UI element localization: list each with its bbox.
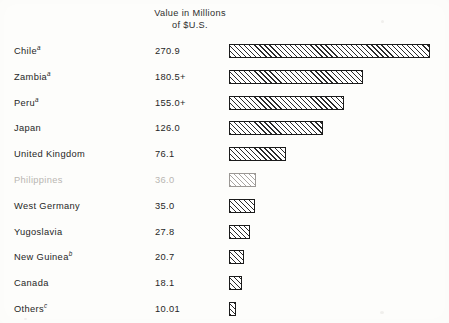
row-category-label: Zambiaa (14, 70, 51, 84)
row-value-label: 270.9 (155, 44, 180, 58)
row-bar-track (229, 302, 236, 316)
row-footnote-marker: b (69, 250, 73, 257)
row-category-text: Chile (14, 46, 37, 56)
row-category-label: Chilea (14, 44, 40, 58)
row-category-text: Zambia (14, 72, 47, 82)
scan-speck (381, 20, 384, 23)
row-footnote-marker: c (44, 302, 47, 309)
row-category-text: Others (14, 304, 44, 314)
row-bar-track (229, 276, 242, 290)
row-value-label: 35.0 (155, 199, 175, 213)
row-value-label: 155.0+ (155, 96, 186, 110)
row-bar-track (229, 70, 363, 84)
row-bar-track (229, 173, 256, 187)
row-category-label: Yugoslavia (14, 225, 62, 239)
row-value-label: 76.1 (155, 147, 175, 161)
row-category-label: Japan (14, 121, 41, 135)
row-value-label: 126.0 (155, 121, 180, 135)
value-column-header-line1: Value in Millions (154, 8, 226, 18)
row-category-label: New Guineab (14, 250, 72, 264)
row-bar-track (229, 250, 244, 264)
row-bar (229, 121, 323, 135)
row-bar (229, 250, 244, 264)
chart-row: Philippines36.0 (0, 173, 449, 199)
row-category-text: United Kingdom (14, 149, 85, 159)
row-value-label: 10.01 (155, 302, 180, 316)
row-bar (229, 302, 236, 316)
row-category-label: West Germany (14, 199, 80, 213)
chart-row: Zambiaa180.5+ (0, 70, 449, 96)
chart-rows: Chilea270.9Zambiaa180.5+Perua155.0+Japan… (0, 44, 449, 323)
row-bar-track (229, 147, 286, 161)
row-bar-track (229, 225, 250, 239)
row-bar (229, 173, 256, 187)
row-value-label: 27.8 (155, 225, 175, 239)
row-value-label: 18.1 (155, 276, 175, 290)
value-column-header-line2: of $U.S. (128, 20, 252, 32)
chart-row: Canada18.1 (0, 276, 449, 302)
row-category-label: Canada (14, 276, 49, 290)
row-category-label: Perua (14, 96, 39, 110)
row-bar (229, 44, 430, 58)
row-category-text: Peru (14, 98, 35, 108)
row-bar (229, 225, 250, 239)
row-value-label: 180.5+ (155, 70, 186, 84)
row-bar (229, 70, 363, 84)
row-bar-track (229, 44, 430, 58)
row-bar (229, 96, 344, 110)
chart-row: Othersc10.01 (0, 302, 449, 323)
chart-row: Chilea270.9 (0, 44, 449, 70)
bar-chart-figure: Value in Millions of $U.S. Chilea270.9Za… (0, 0, 449, 323)
chart-row: New Guineab20.7 (0, 250, 449, 276)
chart-row: West Germany35.0 (0, 199, 449, 225)
row-footnote-marker: a (47, 70, 51, 77)
row-footnote-marker: a (37, 44, 41, 51)
row-bar (229, 199, 255, 213)
row-value-label: 20.7 (155, 250, 175, 264)
chart-row: Japan126.0 (0, 121, 449, 147)
row-category-text: West Germany (14, 201, 80, 211)
row-category-text: Yugoslavia (14, 227, 62, 237)
chart-row: United Kingdom76.1 (0, 147, 449, 173)
row-category-text: Philippines (14, 175, 63, 185)
row-category-text: New Guinea (14, 252, 69, 262)
row-category-label: Othersc (14, 302, 47, 316)
row-bar-track (229, 96, 344, 110)
chart-row: Yugoslavia27.8 (0, 225, 449, 251)
row-bar-track (229, 199, 255, 213)
row-category-text: Japan (14, 123, 41, 133)
row-value-label: 36.0 (155, 173, 175, 187)
row-category-label: Philippines (14, 173, 63, 187)
value-column-header: Value in Millions of $U.S. (128, 8, 252, 31)
row-bar (229, 276, 242, 290)
row-bar (229, 147, 286, 161)
row-category-label: United Kingdom (14, 147, 85, 161)
row-category-text: Canada (14, 278, 49, 288)
row-bar-track (229, 121, 323, 135)
chart-row: Perua155.0+ (0, 96, 449, 122)
row-footnote-marker: a (35, 96, 39, 103)
